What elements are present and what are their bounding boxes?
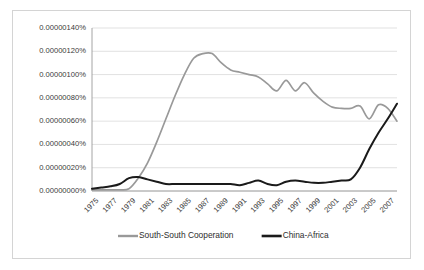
x-axis-tick-label: 2005 bbox=[359, 196, 377, 214]
y-axis-tick-labels: 0.00000000%0.00000020%0.00000040%0.00000… bbox=[39, 23, 86, 195]
series-line-2 bbox=[92, 104, 397, 189]
axis-lines bbox=[92, 28, 397, 191]
y-axis-tick-label: 0.00000040% bbox=[39, 139, 86, 148]
x-axis-tick-label: 1981 bbox=[138, 196, 156, 214]
y-axis-tick-label: 0.00000140% bbox=[39, 23, 86, 32]
y-axis-tick-label: 0.00000000% bbox=[39, 186, 86, 195]
chart-frame: 0.00000000%0.00000020%0.00000040%0.00000… bbox=[12, 10, 411, 259]
gridlines-group bbox=[92, 28, 397, 191]
x-axis-tick-label: 1975 bbox=[82, 196, 100, 214]
x-axis-tick-label: 1989 bbox=[211, 196, 229, 214]
x-axis-tick-label: 1983 bbox=[156, 196, 174, 214]
chart-legend: South-South CooperationChina-Africa bbox=[118, 230, 329, 240]
x-axis-tick-label: 1995 bbox=[267, 196, 285, 214]
line-chart: 0.00000000%0.00000020%0.00000040%0.00000… bbox=[13, 11, 410, 258]
y-axis-tick-label: 0.00000060% bbox=[39, 116, 86, 125]
legend-label-1: South-South Cooperation bbox=[139, 230, 234, 240]
x-axis-tick-label: 1987 bbox=[193, 196, 211, 214]
y-axis-tick-label: 0.00000020% bbox=[39, 163, 86, 172]
x-axis-tick-label: 1991 bbox=[230, 196, 248, 214]
x-axis-tick-labels: 1975197719791981198319851987198919911993… bbox=[82, 196, 396, 214]
x-axis-tick-label: 2003 bbox=[341, 196, 359, 214]
x-axis-tick-label: 2007 bbox=[378, 196, 396, 214]
x-axis-tick-label: 1977 bbox=[101, 196, 119, 214]
y-axis-tick-label: 0.00000080% bbox=[39, 93, 86, 102]
y-axis-tick-label: 0.00000120% bbox=[39, 46, 86, 55]
legend-label-2: China-Africa bbox=[283, 230, 329, 240]
x-axis-tick-label: 2001 bbox=[322, 196, 340, 214]
x-axis-tick-label: 1979 bbox=[119, 196, 137, 214]
y-axis-tick-label: 0.00000100% bbox=[39, 70, 86, 79]
x-axis-tick-label: 1993 bbox=[248, 196, 266, 214]
x-axis-tick-label: 1985 bbox=[175, 196, 193, 214]
x-axis-tick-label: 1999 bbox=[304, 196, 322, 214]
x-axis-tick-label: 1997 bbox=[285, 196, 303, 214]
